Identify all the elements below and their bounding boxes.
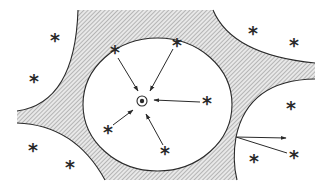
molecule-asterisk-icon: * (65, 156, 75, 178)
sorption-site-icon (137, 96, 147, 106)
molecule-asterisk-icon: * (172, 34, 182, 56)
molecule-asterisk-icon: * (286, 97, 296, 119)
molecule-asterisk-icon: * (289, 34, 299, 56)
arrow-out-1 (236, 137, 286, 138)
molecule-asterisk-icon: * (202, 92, 212, 114)
pore-diffusion-diagram: * * * * * * * * * * * * * * (0, 0, 329, 187)
molecule-asterisk-icon: * (249, 150, 259, 172)
molecule-asterisk-icon: * (28, 139, 38, 161)
molecule-asterisk-icon: * (248, 22, 258, 44)
molecule-asterisk-icon: * (29, 70, 39, 92)
molecule-asterisk-icon: * (103, 121, 113, 143)
molecule-asterisk-icon: * (289, 146, 299, 168)
arrow-out-2 (236, 137, 287, 153)
molecule-asterisk-icon: * (160, 142, 170, 164)
molecule-asterisk-icon: * (110, 41, 120, 63)
molecule-asterisk-icon: * (50, 29, 60, 51)
outward-arrows (236, 137, 287, 153)
